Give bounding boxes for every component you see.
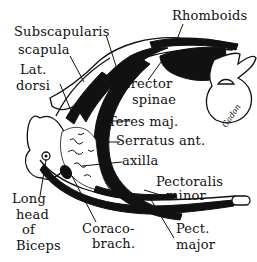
label-teres-maj: Teres maj. [108,114,178,129]
biceps-tendon-inner [45,155,48,158]
clavicle-end [232,196,250,205]
label-coraco-1: Coraco- [82,221,135,236]
label-axilla: axilla [122,153,159,168]
label-pect-minor-2: minor [166,188,206,203]
label-long-head-4: Biceps [16,238,61,253]
label-long-head-3: of [22,222,36,237]
label-pect-major-2: major [176,237,216,252]
label-lat-dorsi-2: dorsi [16,78,50,93]
label-long-head-2: head [16,207,49,222]
label-erector-1: Erector [121,76,173,91]
label-scapula: scapula [18,42,70,57]
label-pect-major-1: Pect. [176,221,210,236]
axilla-cross-section-diagram: Subscapularis Rhomboids scapula Lat. dor… [0,0,257,262]
label-serratus-ant: Serratus ant. [116,133,205,148]
label-erector-2: spinae [132,92,176,107]
label-long-head-1: Long [12,191,46,206]
label-pect-minor-1: Pectoralis [156,174,223,189]
label-rhomboids: Rhomboids [172,8,247,23]
label-subscapularis: Subscapularis [14,24,110,39]
label-coraco-2: brach. [92,236,135,251]
label-lat-dorsi-1: Lat. [20,62,47,77]
